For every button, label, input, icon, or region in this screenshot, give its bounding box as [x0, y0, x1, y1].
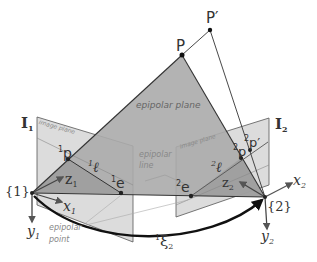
- label-p2prime: 2p′: [244, 135, 260, 149]
- label-y2: y2: [261, 229, 274, 246]
- label-I1: I1: [21, 116, 34, 132]
- epipolar-line-text-1: epipolar: [139, 149, 172, 160]
- label-I2: I2: [275, 117, 288, 133]
- label-P: P: [176, 39, 185, 54]
- label-z1: z1: [65, 172, 77, 189]
- epipolar-point-text-2: point: [49, 234, 82, 246]
- point-e1: [119, 191, 123, 195]
- origin-1: [30, 191, 34, 195]
- label-e2: 2e: [176, 180, 190, 194]
- label-x2: x2: [293, 173, 306, 190]
- label-x1: x1: [63, 199, 76, 216]
- diagram-graphics: [0, 0, 317, 262]
- label-l1: 1ℓ: [88, 160, 99, 174]
- label-z2: z2: [222, 176, 234, 192]
- label-p1: 1p: [58, 146, 72, 160]
- label-Pprime: P′: [206, 11, 218, 26]
- epipolar-point-text-1: epipolar: [49, 222, 82, 234]
- label-y1: y1: [27, 224, 40, 241]
- label-l2: 2ℓ: [211, 160, 222, 174]
- label-epipolar-point: epipolar point: [49, 222, 82, 246]
- label-epipolar-line: epipolar line: [139, 149, 172, 171]
- epipolar-line-text-2: line: [139, 160, 172, 171]
- label-e1: 1e: [111, 176, 125, 190]
- point-Pprime: [208, 28, 212, 32]
- line-P-to-Pprime: [182, 30, 210, 55]
- label-epipolar-plane: epipolar plane: [136, 101, 201, 110]
- label-frame-1: {1}: [5, 185, 30, 198]
- label-transform-xi: 1ξ2: [155, 234, 173, 251]
- epipolar-geometry-diagram: P′ P epipolar plane I1 I2 image plane im…: [0, 0, 317, 262]
- label-frame-2: {2}: [267, 200, 292, 213]
